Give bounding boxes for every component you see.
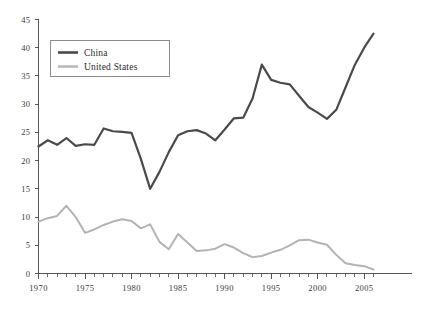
y-tick-label-30: 30 (21, 99, 30, 109)
x-tick-label-1980: 1980 (122, 283, 141, 293)
y-tick-label-25: 25 (21, 127, 30, 137)
y-tick-label-5: 5 (26, 240, 31, 250)
y-tick-label-20: 20 (21, 156, 30, 166)
y-axis-ticks: 051015202530354045 (21, 15, 38, 279)
chart-legend: China United States (51, 41, 170, 77)
x-tick-label-1975: 1975 (76, 283, 95, 293)
x-tick-label-2005: 2005 (355, 283, 374, 293)
legend-label-china: China (84, 48, 108, 58)
series-line-united-states (39, 206, 374, 270)
x-tick-label-2000: 2000 (308, 283, 327, 293)
y-tick-label-45: 45 (21, 15, 30, 25)
x-axis-ticks: 19701975198019851990199520002005 (29, 274, 373, 293)
y-tick-label-0: 0 (26, 269, 31, 279)
x-tick-label-1970: 1970 (29, 283, 48, 293)
x-tick-label-1995: 1995 (262, 283, 281, 293)
legend-label-united-states: United States (84, 62, 138, 72)
x-tick-label-1990: 1990 (215, 283, 234, 293)
y-tick-label-10: 10 (21, 212, 30, 222)
chart-figure: 051015202530354045 197019751980198519901… (0, 0, 426, 312)
line-chart-canvas: 051015202530354045 197019751980198519901… (0, 0, 426, 312)
y-tick-label-40: 40 (21, 43, 30, 53)
x-tick-label-1985: 1985 (169, 283, 188, 293)
y-tick-label-15: 15 (21, 184, 30, 194)
y-tick-label-35: 35 (21, 71, 30, 81)
